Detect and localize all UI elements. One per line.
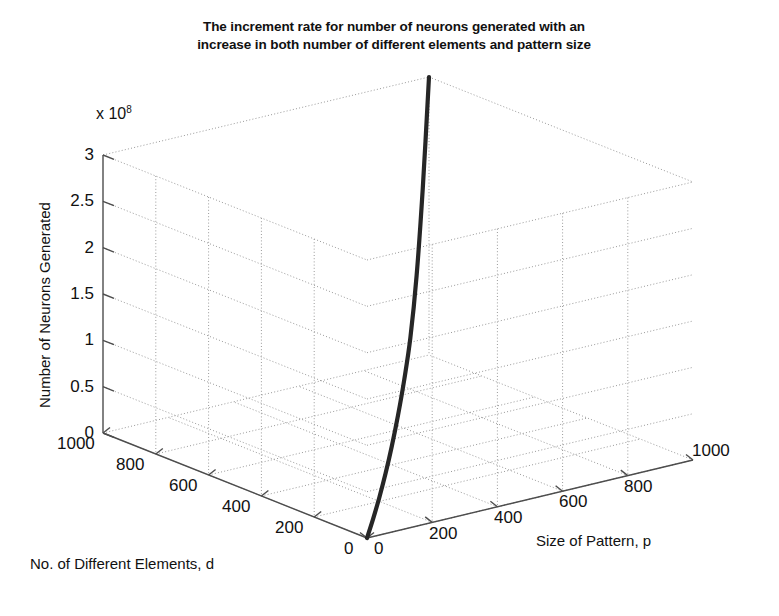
p-tick-label-400: 400 xyxy=(494,508,522,528)
z-tick-label-1: 1 xyxy=(50,330,94,350)
d-tick-label-0: 0 xyxy=(344,539,353,559)
d-axis-line xyxy=(103,433,367,538)
d-tick-label-800: 800 xyxy=(116,455,144,475)
z-tick-label-3: 3 xyxy=(50,145,94,165)
data-series-line xyxy=(367,77,429,538)
p-axis-title: Size of Pattern, p xyxy=(536,532,651,549)
z-tick-label-2: 2 xyxy=(50,238,94,258)
p-tick-label-800: 800 xyxy=(624,477,652,497)
z-axis-ticks xyxy=(103,155,114,437)
d-tick-label-600: 600 xyxy=(169,476,197,496)
p-tick-label-1000: 1000 xyxy=(692,441,730,461)
p-tick-label-0: 0 xyxy=(374,539,383,559)
grid-floor xyxy=(103,355,693,538)
p-axis-line xyxy=(367,460,693,538)
matlab-figure-canvas: The increment rate for number of neurons… xyxy=(0,0,779,616)
grid-box-top-edges xyxy=(103,77,693,355)
plot-axes-3d xyxy=(0,0,779,616)
p-tick-label-200: 200 xyxy=(429,524,457,544)
d-tick-label-1000: 1000 xyxy=(57,434,95,454)
d-tick-label-400: 400 xyxy=(222,497,250,517)
p-tick-label-600: 600 xyxy=(559,492,587,512)
d-axis-title: No. of Different Elements, d xyxy=(30,555,214,572)
z-axis-title: Number of Neurons Generated xyxy=(36,202,53,408)
d-tick-label-200: 200 xyxy=(275,518,303,538)
